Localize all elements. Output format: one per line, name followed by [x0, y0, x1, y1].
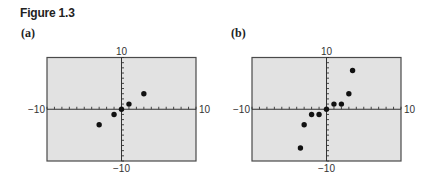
- y-tick-label-max: 10: [321, 46, 333, 57]
- x-tick-label-min: −10: [28, 104, 45, 115]
- x-tick-label-max: 10: [404, 104, 416, 115]
- data-point: [141, 91, 146, 96]
- scatter-panel-b: 10 −10 −10 10: [233, 46, 416, 175]
- x-tick-label-max: 10: [199, 104, 211, 115]
- data-point: [324, 107, 329, 112]
- data-point: [126, 101, 131, 106]
- scatter-panel-a: 10 −10 −10 10: [28, 46, 211, 175]
- data-point: [111, 112, 116, 117]
- y-tick-label-min: −10: [113, 163, 130, 174]
- data-point: [309, 112, 314, 117]
- data-point: [316, 112, 321, 117]
- y-tick-label-max: 10: [116, 46, 128, 57]
- data-point: [96, 122, 101, 127]
- data-point: [301, 122, 306, 127]
- data-point: [346, 91, 351, 96]
- data-point: [298, 145, 303, 150]
- data-point: [350, 68, 355, 73]
- data-point: [331, 101, 336, 106]
- y-tick-label-min: −10: [318, 163, 335, 174]
- data-point: [339, 101, 344, 106]
- x-tick-label-min: −10: [233, 104, 250, 115]
- data-point: [119, 107, 124, 112]
- figure-canvas: 10 −10 −10 10 10 −10 −10 10: [0, 0, 434, 180]
